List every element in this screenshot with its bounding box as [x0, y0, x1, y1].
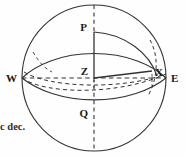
label-west: W: [6, 72, 17, 84]
figure-root: P Z X W E Q c dec.: [0, 0, 185, 156]
label-star: X: [155, 66, 163, 78]
label-east: E: [171, 72, 178, 84]
caption-fragment: c dec.: [0, 121, 25, 132]
label-lower-meridian-point: Q: [79, 107, 88, 119]
label-zenith: Z: [81, 65, 88, 77]
celestial-sphere-diagram: P Z X W E Q c dec.: [0, 0, 185, 156]
label-pole: P: [80, 21, 87, 33]
zenith-to-star-line: [94, 71, 152, 78]
